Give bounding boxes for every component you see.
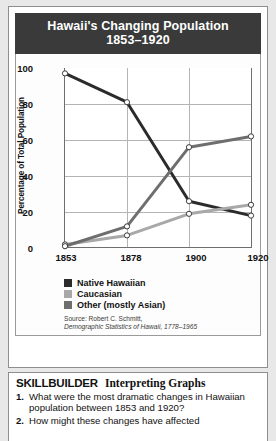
- skillbuilder-panel: SKILLBUILDER Interpreting Graphs 1. What…: [8, 372, 268, 441]
- legend-swatch-caucasian: [64, 290, 72, 298]
- data-point-0-1: [124, 100, 129, 105]
- legend-label-caucasian: Caucasian: [77, 289, 122, 299]
- chart-card: Percentage of Total Population 100 80 60…: [15, 54, 261, 336]
- legend-label-other: Other (mostly Asian): [77, 300, 165, 310]
- chart-title-line-2: 1853–1920: [19, 33, 257, 47]
- data-point-2-0: [62, 244, 67, 249]
- skillbuilder-subtitle: Interpreting Graphs: [105, 377, 205, 389]
- data-point-0-2: [186, 199, 191, 204]
- data-point-2-1: [124, 224, 129, 229]
- y-tick-0: 0: [28, 243, 33, 254]
- chart-legend: Native Hawaiian Caucasian Other (mostly …: [64, 278, 254, 310]
- data-point-1-2: [186, 211, 191, 216]
- y-tick-40: 40: [22, 171, 33, 182]
- data-point-2-3: [248, 134, 253, 139]
- source-line-1: Source: Robert C. Schmitt,: [64, 315, 254, 323]
- y-axis-title: Percentage of Total Population: [14, 62, 28, 248]
- skillbuilder-heading: SKILLBUILDER Interpreting Graphs: [16, 377, 260, 389]
- chart-title-bar: Hawaii's Changing Population 1853–1920: [15, 13, 261, 54]
- legend-item-other: Other (mostly Asian): [64, 300, 254, 310]
- data-point-0-3: [248, 213, 253, 218]
- question-2-text: How might these changes have affected: [29, 415, 260, 426]
- legend-item-caucasian: Caucasian: [64, 289, 254, 299]
- question-2-number: 2.: [16, 415, 29, 426]
- source-line-2: Demographic Statistics of Hawaii, 1778–1…: [64, 323, 254, 331]
- skillbuilder-question-1: 1. What were the most dramatic changes i…: [16, 391, 260, 414]
- data-point-1-1: [124, 233, 129, 238]
- data-point-0-0: [62, 71, 67, 76]
- skillbuilder-question-2: 2. How might these changes have affected: [16, 415, 260, 426]
- question-1-number: 1.: [16, 391, 29, 414]
- legend-swatch-native-hawaiian: [64, 279, 72, 287]
- x-tick-1920: 1920: [247, 252, 268, 263]
- source-citation: Source: Robert C. Schmitt, Demographic S…: [64, 315, 254, 331]
- y-tick-20: 20: [22, 207, 33, 218]
- data-point-1-3: [248, 202, 253, 207]
- chart-figure: Hawaii's Changing Population 1853–1920 P…: [8, 6, 268, 368]
- x-tick-1853: 1853: [55, 252, 76, 263]
- y-axis-title-text: Percentage of Total Population: [17, 97, 26, 214]
- plot-wrapper: 100 80 60 40 20 0: [36, 62, 254, 274]
- chart-title-line-1: Hawaii's Changing Population: [19, 19, 257, 33]
- question-1-text: What were the most dramatic changes in H…: [29, 391, 260, 414]
- legend-swatch-other: [64, 301, 72, 309]
- x-tick-1900: 1900: [185, 252, 206, 263]
- y-tick-60: 60: [22, 135, 33, 146]
- x-tick-1878: 1878: [120, 252, 141, 263]
- textbook-page: Hawaii's Changing Population 1853–1920 P…: [0, 0, 276, 441]
- series-markers: [65, 68, 251, 248]
- y-tick-80: 80: [22, 99, 33, 110]
- y-tick-100: 100: [17, 63, 33, 74]
- skillbuilder-title: SKILLBUILDER: [16, 377, 98, 389]
- legend-label-native-hawaiian: Native Hawaiian: [77, 278, 146, 288]
- chart-plot-area: Percentage of Total Population 100 80 60…: [20, 62, 254, 274]
- data-point-2-2: [186, 145, 191, 150]
- plot-frame: [64, 68, 252, 248]
- legend-item-native-hawaiian: Native Hawaiian: [64, 278, 254, 288]
